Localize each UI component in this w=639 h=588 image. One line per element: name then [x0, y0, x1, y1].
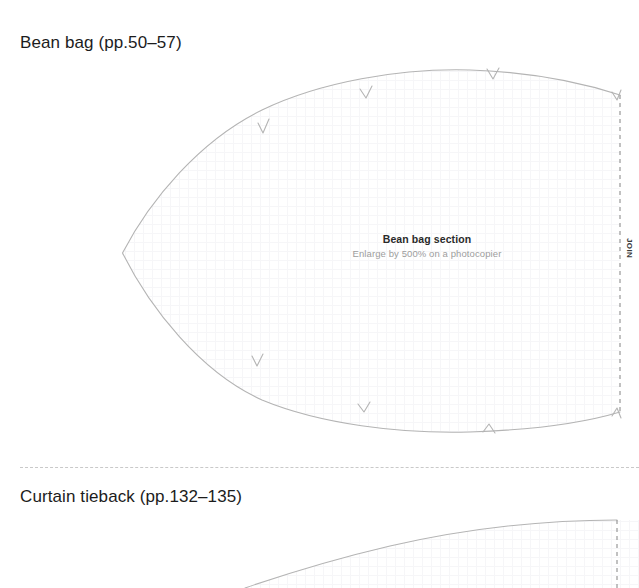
pattern-section-bean-bag: Bean bag (pp.50–57)	[0, 0, 639, 462]
pattern-section-curtain-tieback: Curtain tieback (pp.132–135)	[0, 468, 639, 588]
bean-bag-pattern-art	[0, 0, 639, 462]
pattern-sheet-page: Bean bag (pp.50–57)	[0, 0, 639, 588]
curtain-tieback-pattern-art	[0, 468, 639, 588]
fabric-grid-fill-tieback	[240, 518, 639, 588]
bean-bag-join-label: JOIN	[625, 238, 634, 258]
fabric-grid-fill	[100, 55, 639, 450]
